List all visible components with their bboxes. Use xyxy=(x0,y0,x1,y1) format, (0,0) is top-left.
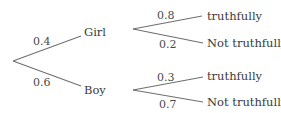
prob-boy-truthful: 0.3 xyxy=(157,71,175,84)
outcome-girl-not-truthful: Not truthfully xyxy=(207,36,281,50)
prob-boy-not-truthful: 0.7 xyxy=(159,98,177,111)
prob-girl-not-truthful: 0.2 xyxy=(159,38,177,51)
probability-tree: 0.4 0.6 Girl Boy 0.8 0.2 truthfully Not … xyxy=(0,0,281,113)
outcome-boy-not-truthful: Not truthfully xyxy=(207,95,281,109)
outcome-boy-truthful: truthfully xyxy=(207,69,263,83)
outcome-girl-truthful: truthfully xyxy=(207,9,263,23)
node-girl: Girl xyxy=(84,25,106,39)
prob-boy: 0.6 xyxy=(33,76,51,89)
prob-girl-truthful: 0.8 xyxy=(157,9,175,22)
node-boy: Boy xyxy=(84,83,106,97)
prob-girl: 0.4 xyxy=(33,35,51,48)
